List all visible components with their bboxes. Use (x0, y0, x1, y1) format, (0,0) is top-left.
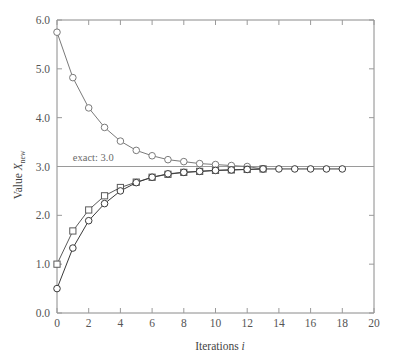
data-point-marker (149, 152, 156, 159)
exact-value-label: exact: 3.0 (73, 152, 114, 163)
y-tick-label: 4.0 (36, 112, 51, 124)
data-point-marker (149, 174, 156, 181)
data-point-marker (181, 169, 188, 176)
x-tick-label: 4 (118, 317, 124, 329)
data-point-marker (101, 200, 108, 207)
y-tick-label: 5.0 (36, 63, 51, 75)
data-point-marker (117, 138, 124, 145)
chart-figure: 02468101214161820 0.01.02.03.04.05.06.0 … (0, 0, 400, 358)
y-tick-label: 2.0 (36, 209, 51, 221)
y-tick-label: 6.0 (36, 14, 51, 26)
data-point-marker (101, 193, 107, 199)
data-point-marker (181, 158, 188, 165)
data-point-marker (85, 105, 92, 112)
x-tick-label: 20 (368, 317, 380, 329)
data-point-marker (117, 188, 124, 195)
data-point-marker (70, 245, 77, 252)
data-point-marker (196, 168, 203, 175)
x-tick-label: 8 (181, 317, 187, 329)
plot-background (0, 0, 400, 358)
iteration-convergence-chart: 02468101214161820 0.01.02.03.04.05.06.0 … (0, 0, 400, 358)
x-tick-label: 6 (149, 317, 155, 329)
data-point-marker (86, 207, 92, 213)
data-point-marker (212, 167, 219, 174)
data-point-marker (196, 160, 203, 167)
data-point-marker (228, 167, 235, 174)
chart-annotations: exact: 3.0 (73, 152, 114, 163)
data-point-marker (291, 166, 298, 173)
x-axis-title: Iterations i (195, 340, 245, 352)
y-tick-label: 1.0 (36, 258, 51, 270)
data-point-marker (244, 166, 251, 173)
x-tick-label: 12 (241, 317, 253, 329)
x-tick-label: 14 (273, 317, 285, 329)
y-tick-label: 0.0 (36, 307, 51, 319)
data-point-marker (133, 179, 140, 186)
data-point-marker (276, 166, 283, 173)
data-point-marker (323, 166, 330, 173)
data-point-marker (85, 217, 92, 224)
y-tick-label: 3.0 (36, 161, 51, 173)
svg-text:Iterations i: Iterations i (195, 340, 245, 352)
data-point-marker (260, 166, 267, 173)
data-point-marker (54, 261, 60, 267)
data-point-marker (307, 166, 314, 173)
data-point-marker (101, 124, 108, 131)
x-tick-label: 10 (210, 317, 222, 329)
x-tick-label: 2 (86, 317, 92, 329)
data-point-marker (133, 147, 140, 154)
data-point-marker (70, 74, 77, 81)
data-point-marker (165, 156, 172, 163)
data-point-marker (70, 228, 76, 234)
data-point-marker (54, 285, 61, 292)
x-tick-label: 0 (54, 317, 60, 329)
data-point-marker (339, 166, 346, 173)
data-point-marker (54, 29, 61, 36)
x-tick-label: 16 (305, 317, 317, 329)
data-point-marker (165, 171, 172, 178)
x-tick-label: 18 (337, 317, 349, 329)
